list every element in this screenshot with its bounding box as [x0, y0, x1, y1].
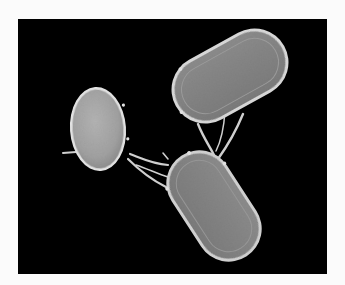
micrograph-panel: Grayscale scanning electron micrograph o… — [18, 19, 327, 274]
bacterium-top-right — [159, 19, 300, 136]
image-frame: Grayscale scanning electron micrograph o… — [0, 0, 345, 285]
micrograph-svg — [18, 19, 327, 274]
bacterium-bottom — [154, 137, 275, 274]
bacterium-left — [67, 85, 131, 173]
